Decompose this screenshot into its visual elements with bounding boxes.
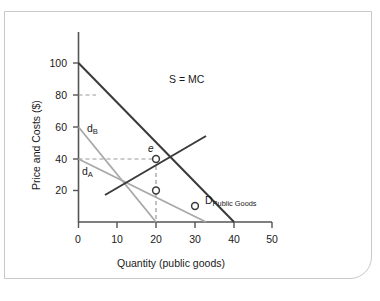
chart-plot-area — [0, 0, 380, 301]
y-tick-label-100: 100 — [41, 57, 67, 69]
annotation-d-b-sub: B — [93, 127, 98, 136]
annotation-d-public-goods-base: D — [205, 194, 213, 206]
marker-point-dB-20 — [153, 187, 160, 194]
curve-d-a — [79, 159, 207, 222]
x-tick-label-30: 30 — [182, 233, 208, 245]
y-tick-label-60: 60 — [41, 121, 67, 133]
annotation-d-a-sub: A — [88, 170, 93, 179]
figure-container: 100 80 60 40 20 0 10 20 30 40 50 Quantit… — [0, 0, 380, 301]
annotation-d-a: dA — [82, 165, 93, 177]
y-axis-title: Price and Costs ($) — [30, 100, 42, 190]
x-tick-label-0: 0 — [65, 233, 91, 245]
x-tick-label-40: 40 — [221, 233, 247, 245]
x-tick-label-20: 20 — [143, 233, 169, 245]
curve-s-mc — [105, 136, 206, 195]
annotation-d-public-goods: DPublic Goods — [205, 194, 257, 206]
x-axis-ticks — [79, 222, 273, 228]
x-tick-label-10: 10 — [104, 233, 130, 245]
x-tick-label-50: 50 — [259, 233, 285, 245]
annotation-d-b-base: d — [87, 122, 93, 134]
x-axis-title: Quantity (public goods) — [117, 257, 225, 269]
annotation-s-mc: S = MC — [169, 73, 204, 85]
annotation-d-b: dB — [87, 122, 98, 134]
y-tick-label-80: 80 — [41, 89, 67, 101]
annotation-point-e-label: e — [148, 143, 154, 154]
y-tick-label-40: 40 — [41, 153, 67, 165]
y-tick-label-20: 20 — [41, 184, 67, 196]
annotation-d-public-goods-sub: Public Goods — [213, 199, 257, 208]
marker-point-dA-30 — [192, 203, 199, 210]
marker-equilibrium-e — [153, 156, 160, 163]
annotation-d-a-base: d — [82, 165, 88, 177]
